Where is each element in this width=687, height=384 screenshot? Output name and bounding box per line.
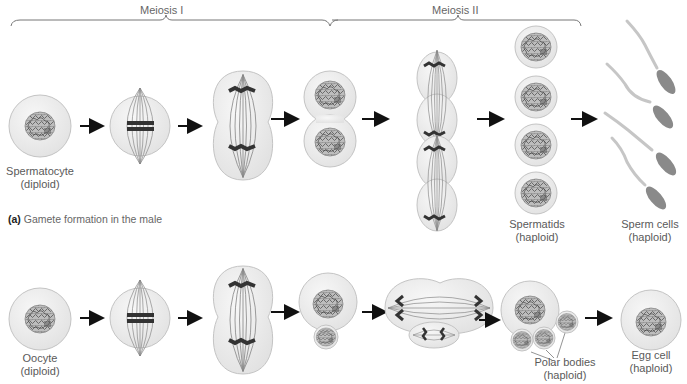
telophase-i-cells-female — [299, 273, 357, 349]
meiosis-diagram — [0, 0, 687, 384]
metaphase-i-cell-female — [110, 280, 170, 356]
anaphase-i-cell-male — [213, 71, 272, 180]
anaphase-i-cell-female — [213, 266, 272, 374]
sperm-cells — [605, 21, 680, 213]
figure-caption-a: (a) Gamete formation in the male — [8, 213, 162, 225]
oocyte-cell — [9, 288, 71, 350]
egg-and-polar-bodies — [501, 281, 578, 360]
telophase-i-cells-male — [304, 71, 356, 167]
meiosis-1-brace — [11, 15, 338, 26]
spermatids-cells — [515, 26, 557, 214]
anaphase-ii-cells-male — [417, 51, 457, 232]
egg-cell — [621, 290, 681, 350]
oocyte-label: Oocyte (diploid) — [10, 352, 70, 378]
anaphase-ii-cells-female — [385, 279, 493, 348]
meiosis-1-label: Meiosis I — [140, 4, 183, 16]
spermatocyte-label: Spermatocyte (diploid) — [2, 165, 78, 191]
spermatocyte-cell — [9, 95, 71, 157]
metaphase-i-cell-male — [110, 88, 170, 164]
egg-cell-label: Egg cell (haploid) — [621, 349, 681, 375]
meiosis-2-brace — [332, 15, 581, 26]
sperm-cells-label: Sperm cells (haploid) — [617, 218, 683, 244]
meiosis-2-label: Meiosis II — [432, 4, 478, 16]
polar-bodies-label: Polar bodies (haploid) — [530, 356, 600, 382]
spermatids-label: Spermatids (haploid) — [506, 218, 568, 244]
